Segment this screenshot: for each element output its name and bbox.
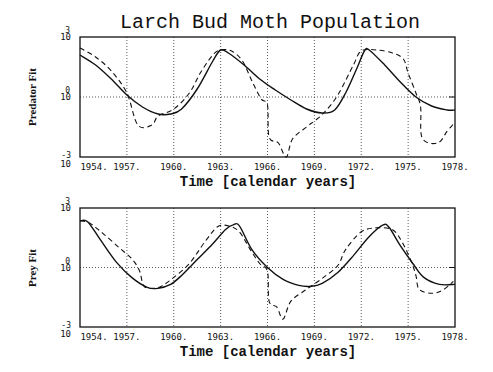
predator-x-axis-label: Time [calendar years] <box>180 174 356 190</box>
y-tick-exponent: 3 <box>65 197 70 206</box>
chart-title: Larch Bud Moth Population <box>120 11 420 34</box>
x-tick-label: 1960. <box>160 332 187 342</box>
figure: Larch Bud Moth Population 1954.1957.1960… <box>0 0 493 372</box>
x-tick-label: 1969. <box>301 162 328 172</box>
x-tick-label: 1957. <box>113 162 140 172</box>
prey-model-line <box>80 220 455 288</box>
x-tick-label: 1978. <box>441 332 468 342</box>
y-tick-label: 10 <box>60 329 71 339</box>
predator-panel: 1954.1957.1960.1963.1966.1969.1972.1975.… <box>60 26 468 172</box>
x-tick-label: 1975. <box>395 332 422 342</box>
prey-panel: 1954.1957.1960.1963.1966.1969.1972.1975.… <box>60 197 468 342</box>
y-tick-exponent: -3 <box>61 321 71 330</box>
x-tick-label: 1969. <box>301 332 328 342</box>
y-tick-exponent: 0 <box>65 257 70 266</box>
x-tick-label: 1954. <box>80 162 107 172</box>
x-tick-label: 1966. <box>254 332 281 342</box>
x-tick-label: 1978. <box>441 162 468 172</box>
y-tick-exponent: 0 <box>65 86 70 95</box>
x-tick-label: 1957. <box>113 332 140 342</box>
y-tick-exponent: -3 <box>61 151 71 160</box>
x-tick-label: 1954. <box>80 332 107 342</box>
x-tick-label: 1975. <box>395 162 422 172</box>
prey-data-line <box>80 221 453 319</box>
y-tick-exponent: 3 <box>65 26 70 35</box>
y-tick-label: 10 <box>60 159 71 169</box>
x-tick-label: 1966. <box>254 162 281 172</box>
prey-x-axis-label: Time [calendar years] <box>180 344 356 360</box>
predator-y-axis-label: Predator Fit <box>26 68 38 126</box>
prey-y-axis-label: Prey Fit <box>26 249 38 287</box>
x-tick-label: 1972. <box>348 162 375 172</box>
x-tick-label: 1960. <box>160 162 187 172</box>
x-tick-label: 1963. <box>207 162 234 172</box>
x-tick-label: 1963. <box>207 332 234 342</box>
x-tick-label: 1972. <box>348 332 375 342</box>
